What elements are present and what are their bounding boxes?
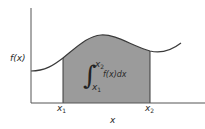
lower-bound-label: x1: [57, 104, 66, 113]
integrand: f(x)dx: [103, 71, 127, 79]
upper-bound-label: x2: [145, 104, 154, 113]
x-axis-label-text: x: [110, 115, 115, 125]
x-axis-label: x: [110, 116, 115, 125]
y-axis-label: f(x): [10, 54, 26, 63]
integral-upper-limit: x2: [95, 60, 104, 69]
shaded-area: [63, 35, 150, 103]
integral-lower-sub: 1: [97, 86, 101, 93]
integral-lower-limit: x1: [92, 83, 101, 92]
integrand-text: f(x)dx: [103, 70, 127, 79]
y-axis-label-text: f(x): [10, 53, 26, 63]
upper-bound-sub: 2: [150, 107, 154, 114]
integral-upper-sub: 2: [100, 63, 104, 70]
lower-bound-sub: 1: [62, 107, 66, 114]
